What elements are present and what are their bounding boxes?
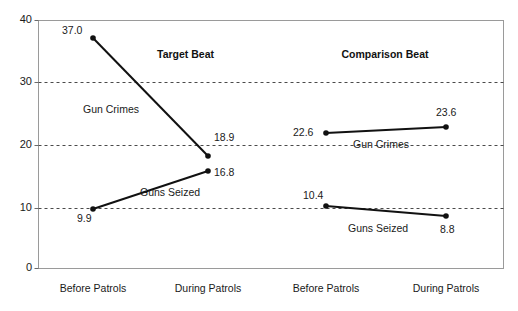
comparison-gun-crimes-point-during: [443, 124, 449, 130]
target-gun-crimes-value-during: 18.9: [214, 131, 234, 143]
target-beat-title: Target Beat: [128, 48, 243, 60]
target-gun-crimes-value-before: 37.0: [62, 24, 82, 36]
target-guns-seized-value-during: 16.8: [214, 166, 234, 178]
xtick-label-comparison-during: During Patrols: [401, 282, 491, 294]
comparison-guns-seized-point-during: [443, 213, 449, 219]
comparison-guns-seized-value-during: 8.8: [440, 223, 455, 235]
comparison-beat-title: Comparison Beat: [320, 48, 450, 60]
comparison-gun-crimes-value-before: 22.6: [293, 126, 313, 138]
ytick-label-20: 20: [8, 138, 32, 150]
ytick-label-0: 0: [8, 261, 32, 273]
xtick-label-target-before: Before Patrols: [48, 282, 138, 294]
target-guns-seized-series-label: Guns Seized: [140, 186, 200, 198]
xtick-label-target-during: During Patrols: [163, 282, 253, 294]
comparison-guns-seized-series-label: Guns Seized: [348, 222, 408, 234]
ytick-label-40: 40: [8, 13, 32, 25]
ytick-label-10: 10: [8, 201, 32, 213]
target-gun-crimes-point-before: [90, 35, 96, 41]
comparison-gun-crimes-point-before: [323, 130, 329, 136]
chart-figure: 40 30 20 10 0 Before Patrols During Patr…: [0, 0, 518, 311]
target-gun-crimes-series-label: Gun Crimes: [83, 103, 139, 115]
xtick-label-comparison-before: Before Patrols: [281, 282, 371, 294]
target-guns-seized-value-before: 9.9: [77, 212, 92, 224]
ytick-label-30: 30: [8, 75, 32, 87]
comparison-gun-crimes-value-during: 23.6: [436, 106, 456, 118]
chart-canvas: [0, 0, 518, 311]
comparison-gun-crimes-series-label: Gun Crimes: [353, 138, 409, 150]
target-gun-crimes-point-during: [205, 153, 211, 159]
target-guns-seized-point-before: [90, 206, 96, 212]
comparison-guns-seized-point-before: [323, 203, 329, 209]
comparison-guns-seized-value-before: 10.4: [303, 189, 323, 201]
target-guns-seized-point-during: [205, 168, 211, 174]
